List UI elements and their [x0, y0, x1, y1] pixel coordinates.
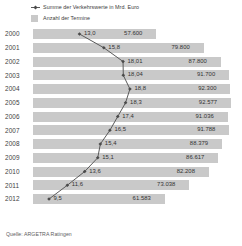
line-value-label: 16,5	[114, 126, 126, 133]
chart-row: 200888.37915,4	[0, 138, 242, 152]
line-value-label: 15,1	[102, 154, 114, 161]
row-year-label: 2010	[5, 168, 29, 176]
chart-row: 200691.03617,4	[0, 111, 242, 125]
row-year-label: 2009	[5, 154, 29, 162]
bar-value-label: 92.300	[198, 85, 216, 92]
line-marker-icon	[31, 3, 40, 12]
bar-value-label: 91.788	[197, 126, 215, 133]
line-value-label: 11,6	[72, 181, 83, 188]
bar-value-label: 86.617	[186, 154, 204, 161]
bar-value-label: 57.600	[124, 30, 142, 37]
row-year-label: 2000	[5, 30, 29, 38]
chart-row: 200492.30018,8	[0, 83, 242, 97]
chart-legend: Summe der Verkehrswerte in Mrd. Euro Anz…	[31, 2, 236, 24]
row-year-label: 2002	[5, 58, 29, 66]
chart-row: 200986.61715,1	[0, 152, 242, 166]
chart-container: Summe der Verkehrswerte in Mrd. Euro Anz…	[0, 0, 242, 246]
row-year-label: 2003	[5, 72, 29, 80]
chart-row: 200057.60013,0	[0, 28, 242, 42]
chart-row: 200179.80015,8	[0, 42, 242, 56]
line-value-label: 18,8	[134, 85, 146, 92]
chart-row: 200592.57718,3	[0, 97, 242, 111]
bar-value-label: 88.379	[190, 140, 208, 147]
bar-value-label: 91.036	[196, 113, 214, 120]
row-year-label: 2006	[5, 113, 29, 121]
line-value-label: 15,8	[108, 44, 120, 51]
chart-row: 201082.20813,6	[0, 166, 242, 180]
row-year-label: 2005	[5, 99, 29, 107]
legend-item-termine: Anzahl der Termine	[31, 13, 236, 23]
bar-value-label: 87.800	[189, 58, 207, 65]
chart-row: 200287.80018,01	[0, 56, 242, 70]
legend-label-verkehrswerte: Summe der Verkehrswerte in Mrd. Euro	[43, 4, 139, 11]
bar-value-label: 82.208	[177, 168, 195, 175]
row-year-label: 2012	[5, 195, 29, 203]
chart-row: 200791.78816,5	[0, 124, 242, 138]
bar-value-label: 61.583	[133, 195, 151, 202]
line-value-label: 18,3	[130, 99, 142, 106]
line-value-label: 13,0	[84, 30, 96, 37]
line-value-label: 18,01	[128, 58, 143, 65]
line-value-label: 15,4	[105, 140, 117, 147]
chart-row: 201173.03811,6	[0, 179, 242, 193]
row-year-label: 2001	[5, 44, 29, 52]
bar-value-label: 73.038	[157, 181, 175, 188]
line-value-label: 13,6	[89, 168, 101, 175]
chart-rows: 200057.60013,0200179.80015,8200287.80018…	[0, 28, 242, 207]
legend-item-verkehrswerte: Summe der Verkehrswerte in Mrd. Euro	[31, 2, 236, 12]
bar-value-label: 91.700	[197, 71, 215, 78]
source-note: Quelle: ARGETRA Ratingen	[6, 231, 72, 237]
row-year-label: 2011	[5, 182, 29, 190]
bar-value-label: 79.800	[172, 44, 190, 51]
line-value-label: 17,4	[122, 113, 134, 120]
chart-row: 201261.5839,5	[0, 193, 242, 207]
line-value-label: 9,5	[54, 195, 62, 202]
row-year-label: 2004	[5, 85, 29, 93]
legend-label-termine: Anzahl der Termine	[43, 15, 90, 22]
row-year-label: 2007	[5, 127, 29, 135]
row-year-label: 2008	[5, 140, 29, 148]
chart-row: 200391.70018,04	[0, 69, 242, 83]
bar-value-label: 92.577	[199, 99, 217, 106]
line-value-label: 18,04	[128, 71, 143, 78]
swatch-icon	[31, 14, 40, 23]
